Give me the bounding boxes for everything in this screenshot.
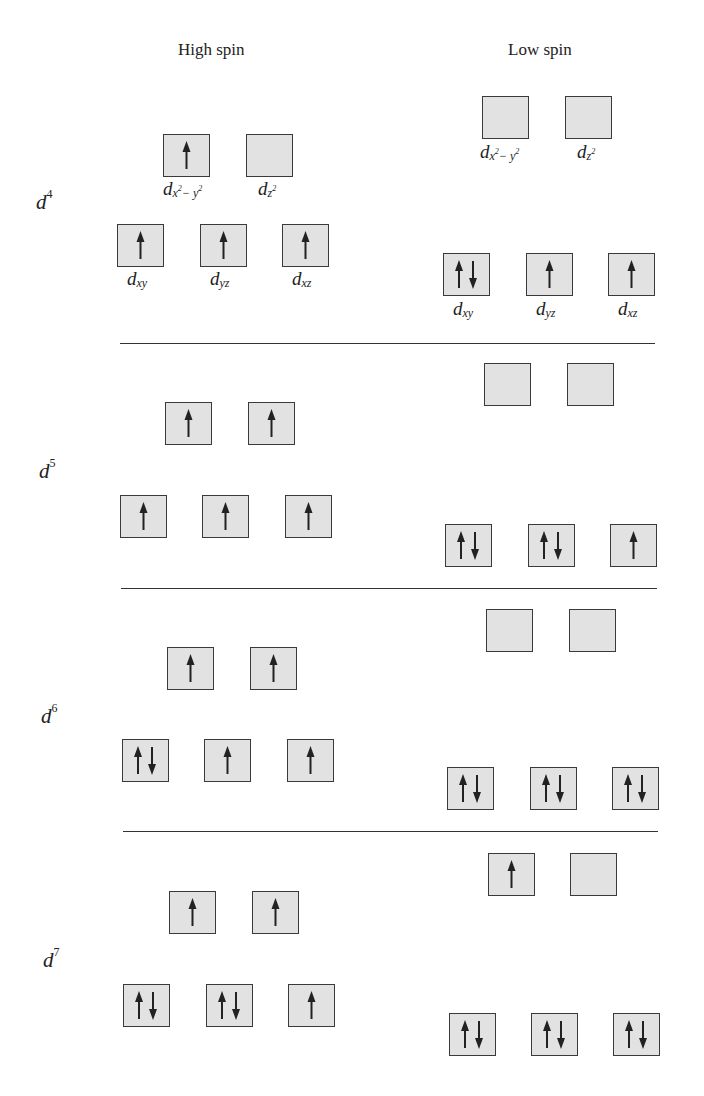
orbital-box-d6-high-t2g-3 [287, 739, 334, 782]
spin-pair-arrows-icon [613, 768, 658, 809]
spin-pair-arrows-icon [450, 1014, 495, 1055]
spin-pair-arrows-icon [529, 525, 574, 566]
orbital-box-d4-low-t2g-1 [443, 253, 490, 296]
orbital-box-d7-high-eg-1 [169, 891, 216, 934]
spin-pair-arrows-icon [123, 740, 168, 781]
spin-up-arrow-icon [609, 254, 654, 295]
orbital-box-d4-low-t2g-2 [526, 253, 573, 296]
orbital-box-d7-high-t2g-3 [288, 984, 335, 1027]
orbital-box-d7-high-t2g-2 [206, 984, 253, 1027]
label-dxz-high: dxz [292, 268, 312, 290]
spin-up-arrow-icon [283, 225, 328, 266]
spin-pair-arrows-icon [446, 525, 491, 566]
orbital-box-d5-high-t2g-1 [120, 495, 167, 538]
orbital-box-d4-low-eg-1 [482, 96, 529, 139]
orbital-box-d4-low-t2g-3 [608, 253, 655, 296]
label-dz2-low: dz2 [577, 141, 595, 163]
orbital-box-d5-high-t2g-2 [202, 495, 249, 538]
label-dxy-high: dxy [127, 268, 147, 290]
spin-up-arrow-icon [251, 648, 296, 689]
spin-up-arrow-icon [288, 740, 333, 781]
spin-up-arrow-icon [611, 525, 656, 566]
spin-up-arrow-icon [289, 985, 334, 1026]
spin-up-arrow-icon [253, 892, 298, 933]
spin-pair-arrows-icon [448, 768, 493, 809]
divider-d6-d7 [123, 831, 658, 832]
spin-pair-arrows-icon [614, 1014, 659, 1055]
orbital-box-d6-high-t2g-2 [204, 739, 251, 782]
spin-up-arrow-icon [286, 496, 331, 537]
orbital-box-d7-high-t2g-1 [123, 984, 170, 1027]
spin-pair-arrows-icon [124, 985, 169, 1026]
orbital-box-d5-low-t2g-3 [610, 524, 657, 567]
orbital-box-d7-low-eg-1 [488, 853, 535, 896]
orbital-box-d4-high-eg-2 [246, 134, 293, 177]
orbital-box-d5-low-t2g-1 [445, 524, 492, 567]
orbital-box-d4-low-eg-2 [565, 96, 612, 139]
spin-up-arrow-icon [205, 740, 250, 781]
orbital-box-d5-high-eg-2 [248, 402, 295, 445]
orbital-box-d6-high-eg-1 [167, 647, 214, 690]
header-low-spin: Low spin [508, 40, 572, 60]
orbital-box-d6-high-t2g-1 [122, 739, 169, 782]
spin-up-arrow-icon [170, 892, 215, 933]
orbital-box-d5-low-t2g-2 [528, 524, 575, 567]
label-dyz-low: dyz [536, 298, 556, 320]
divider-d4-d5 [120, 343, 655, 344]
config-label-d4: d4 [36, 190, 53, 215]
spin-up-arrow-icon [118, 225, 163, 266]
orbital-box-d5-high-t2g-3 [285, 495, 332, 538]
spin-up-arrow-icon [527, 254, 572, 295]
spin-up-arrow-icon [489, 854, 534, 895]
clipped-text-fragment [0, 0, 704, 6]
orbital-box-d4-high-t2g-1 [117, 224, 164, 267]
orbital-box-d6-low-eg-2 [569, 609, 616, 652]
orbital-box-d4-high-t2g-3 [282, 224, 329, 267]
orbital-box-d4-high-eg-1 [163, 134, 210, 177]
config-label-d5: d5 [39, 459, 56, 484]
label-dx2y2-high: dx2− y2 [163, 178, 202, 200]
orbital-box-d7-low-t2g-1 [449, 1013, 496, 1056]
spin-up-arrow-icon [249, 403, 294, 444]
label-dxz-low: dxz [618, 298, 638, 320]
spin-up-arrow-icon [166, 403, 211, 444]
label-dxy-low: dxy [453, 298, 473, 320]
config-label-d7: d7 [43, 948, 60, 973]
orbital-box-d6-low-t2g-2 [530, 767, 577, 810]
spin-pair-arrows-icon [531, 768, 576, 809]
orbital-box-d6-high-eg-2 [250, 647, 297, 690]
orbital-box-d7-low-eg-2 [570, 853, 617, 896]
orbital-box-d6-low-eg-1 [486, 609, 533, 652]
orbital-box-d4-high-t2g-2 [200, 224, 247, 267]
config-label-d6: d6 [41, 704, 58, 729]
spin-up-arrow-icon [164, 135, 209, 176]
orbital-box-d6-low-t2g-3 [612, 767, 659, 810]
header-high-spin: High spin [178, 40, 245, 60]
spin-up-arrow-icon [121, 496, 166, 537]
orbital-box-d7-high-eg-2 [252, 891, 299, 934]
orbital-box-d5-low-eg-2 [567, 363, 614, 406]
spin-up-arrow-icon [201, 225, 246, 266]
orbital-box-d5-low-eg-1 [484, 363, 531, 406]
label-dx2y2-low: dx2− y2 [480, 141, 519, 163]
label-dz2-high: dz2 [258, 178, 276, 200]
orbital-box-d7-low-t2g-3 [613, 1013, 660, 1056]
spin-up-arrow-icon [168, 648, 213, 689]
orbital-box-d6-low-t2g-1 [447, 767, 494, 810]
spin-pair-arrows-icon [532, 1014, 577, 1055]
spin-up-arrow-icon [203, 496, 248, 537]
orbital-box-d5-high-eg-1 [165, 402, 212, 445]
orbital-box-d7-low-t2g-2 [531, 1013, 578, 1056]
label-dyz-high: dyz [210, 268, 230, 290]
spin-pair-arrows-icon [207, 985, 252, 1026]
divider-d5-d6 [121, 588, 657, 589]
spin-pair-arrows-icon [444, 254, 489, 295]
